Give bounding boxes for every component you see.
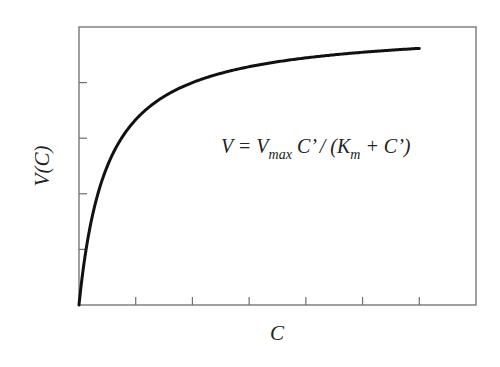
y-axis-label: V(C) <box>30 146 54 187</box>
formula-annotation: V = Vmax C’ / (Km + C’) <box>221 135 411 162</box>
plot-frame <box>79 27 476 305</box>
chart: V = Vmax C’ / (Km + C’) C V(C) <box>0 0 500 367</box>
x-axis-label: C <box>270 321 285 345</box>
axis-ticks <box>79 83 419 305</box>
data-line-V <box>79 48 419 305</box>
